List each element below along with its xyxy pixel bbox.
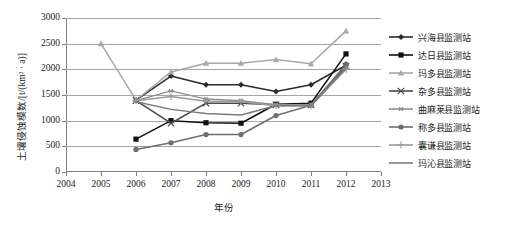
x-axis-title: 年份 [66,200,381,214]
data-point-square [203,120,208,125]
data-point-plus [398,142,405,149]
x-tick [101,172,102,176]
legend-label: 达日县监测站 [418,49,471,62]
data-point-circle [133,147,138,152]
data-point-circle [273,113,278,118]
x-tick [206,172,207,176]
legend-label: 兴海县监测站 [418,31,471,44]
plot-area: 050010001500200025003000 200420052006200… [66,18,381,172]
legend-key-plus-icon [388,138,414,152]
x-tick [276,172,277,176]
y-tick-label: 2000 [41,65,60,75]
legend-item[interactable]: 称多县监测站 [388,118,506,136]
y-tick-label: 2500 [41,39,60,49]
series-layer [66,18,381,172]
legend-item[interactable]: 曲麻莱县监测站 [388,100,506,118]
data-point-square [398,52,403,57]
x-tick-label: 2006 [127,180,146,190]
legend-key-none-icon [388,156,414,170]
y-axis-title: 土壤侵蚀模数/[t/(km² · a)] [14,32,28,182]
legend-item[interactable]: 达日县监测站 [388,46,506,64]
chart-root: 土壤侵蚀模数/[t/(km² · a)] 0500100015002000250… [0,0,507,234]
x-tick-label: 2005 [92,180,111,190]
x-tick-label: 2011 [302,180,321,190]
x-tick-label: 2008 [197,180,216,190]
legend-label: 杂多县监测站 [418,85,471,98]
x-tick-label: 2009 [232,180,251,190]
data-point-circle [398,124,403,129]
x-tick-label: 2013 [372,180,391,190]
y-tick-label: 500 [46,142,60,152]
x-tick-label: 2004 [57,180,76,190]
legend-item[interactable]: 兴海县监测站 [388,28,506,46]
data-point-circle [168,140,173,145]
x-tick-label: 2007 [162,180,181,190]
legend-key-triangle-icon [388,66,414,80]
data-point-asterisk [398,107,404,111]
data-point-triangle [98,40,104,46]
data-point-circle [238,132,243,137]
y-tick-label: 3000 [41,13,60,23]
data-point-square [343,51,348,56]
x-tick [171,172,172,176]
x-tick-label: 2012 [337,180,356,190]
legend-label: 囊谦县监测站 [418,139,471,152]
data-point-triangle [343,28,349,34]
legend-item[interactable]: 杂多县监测站 [388,82,506,100]
x-tick [346,172,347,176]
legend-label: 玛沁县监测站 [418,157,471,170]
data-point-diamond [203,82,209,88]
data-point-diamond [398,34,404,40]
legend-key-circle-icon [388,120,414,134]
data-point-plus [168,93,175,100]
x-tick [241,172,242,176]
legend-item[interactable]: 玛沁县监测站 [388,154,506,172]
legend-label: 称多县监测站 [418,121,471,134]
data-point-diamond [238,82,244,88]
y-tick-label: 1500 [41,90,60,100]
x-axis-title-text: 年份 [214,203,234,213]
legend-key-x-cross-icon [388,84,414,98]
legend: 兴海县监测站达日县监测站玛多县监测站杂多县监测站曲麻莱县监测站称多县监测站囊谦县… [388,28,506,172]
y-axis-title-text: 土壤侵蚀模数/[t/(km² · a)] [17,53,27,161]
legend-item[interactable]: 囊谦县监测站 [388,136,506,154]
legend-label: 曲麻莱县监测站 [418,103,480,116]
x-tick [136,172,137,176]
x-tick-label: 2010 [267,180,286,190]
y-tick-label: 0 [55,167,60,177]
data-point-diamond [308,82,314,88]
legend-label: 玛多县监测站 [418,67,471,80]
y-tick-label: 1000 [41,116,60,126]
data-point-square [133,137,138,142]
legend-key-square-icon [388,48,414,62]
data-point-circle [203,132,208,137]
series-5 [133,62,348,152]
x-tick [311,172,312,176]
legend-key-diamond-icon [388,30,414,44]
legend-item[interactable]: 玛多县监测站 [388,64,506,82]
legend-key-asterisk-icon [388,102,414,116]
data-point-square [238,121,243,126]
series-2 [98,28,349,103]
x-tick [66,172,67,176]
x-tick [381,172,382,176]
data-point-diamond [273,88,279,94]
